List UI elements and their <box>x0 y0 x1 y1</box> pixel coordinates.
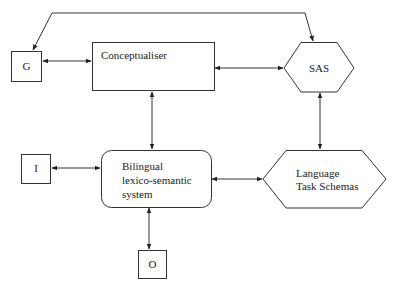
diagram-canvas: G Conceptualiser SAS I Bilingual lexico-… <box>0 0 402 291</box>
i-label: I <box>21 162 51 175</box>
bilingual-label-1: Bilingual <box>122 160 163 173</box>
o-label: O <box>138 258 167 271</box>
lts-label-1: Language <box>296 167 339 180</box>
edge-top-to-sas <box>305 13 313 41</box>
conceptualiser-label: Conceptualiser <box>101 49 167 62</box>
lts-label-2: Task Schemas <box>296 180 358 193</box>
edge-top-to-g <box>33 13 52 50</box>
bilingual-label-2: lexico-semantic <box>122 174 192 187</box>
diagram-shapes <box>0 0 402 291</box>
g-label: G <box>11 60 42 73</box>
sas-label: SAS <box>284 62 354 75</box>
bilingual-label-3: system <box>122 188 153 201</box>
